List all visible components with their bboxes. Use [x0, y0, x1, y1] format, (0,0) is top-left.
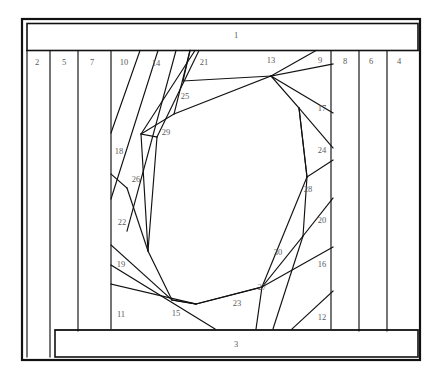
piece-label-9: 9: [318, 55, 322, 65]
piece-label-28: 28: [304, 184, 313, 194]
piece-1-top-band: [27, 24, 418, 51]
piece-label-11: 11: [117, 309, 125, 319]
piece-label-10: 10: [120, 57, 129, 67]
piece-label-24: 24: [318, 145, 327, 155]
piece-label-25: 25: [181, 91, 190, 101]
piece-label-17: 17: [318, 103, 327, 113]
piece-label-19: 19: [117, 259, 126, 269]
piece-label-5: 5: [62, 57, 66, 67]
piece-label-1: 1: [234, 30, 238, 40]
piece-label-23: 23: [233, 298, 242, 308]
piece-label-14: 14: [152, 58, 161, 68]
piece-label-21: 21: [200, 57, 209, 67]
piece-label-8: 8: [343, 56, 347, 66]
piece-label-15: 15: [172, 308, 181, 318]
piece-label-26: 26: [132, 174, 141, 184]
piece-label-30: 30: [274, 247, 283, 257]
piece-label-2: 2: [35, 57, 39, 67]
piece-label-22: 22: [118, 217, 127, 227]
pattern-canvas: 1257101421139864251729182426282220301916…: [0, 0, 443, 379]
piece-label-18: 18: [115, 146, 124, 156]
piece-label-20: 20: [318, 215, 327, 225]
piece-label-6: 6: [369, 56, 373, 66]
piece-label-16: 16: [318, 259, 327, 269]
piece-label-29: 29: [162, 127, 171, 137]
quilt-block-diagram: 1257101421139864251729182426282220301916…: [0, 0, 443, 379]
piece-label-27: 27: [258, 282, 267, 292]
piece-label-3: 3: [234, 339, 238, 349]
canvas-background: [0, 0, 443, 379]
piece-label-12: 12: [318, 312, 327, 322]
piece-label-7: 7: [90, 57, 94, 67]
piece-label-13: 13: [267, 55, 276, 65]
